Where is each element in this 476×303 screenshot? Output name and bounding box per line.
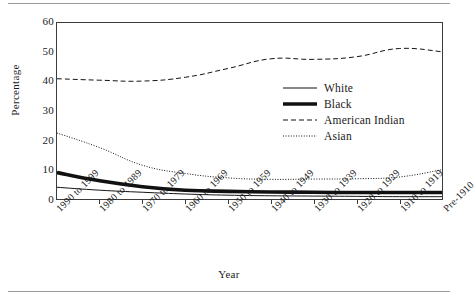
legend-item-white[interactable]: White bbox=[283, 80, 433, 95]
y-axis-tick-labels: 0102030405060 bbox=[28, 0, 54, 303]
legend-item-black[interactable]: Black bbox=[283, 96, 433, 111]
series-line-american-indian bbox=[57, 48, 442, 81]
legend-item-american-indian[interactable]: American Indian bbox=[283, 112, 433, 127]
y-axis-tick-label: 10 bbox=[32, 164, 54, 175]
y-axis-tick-label: 0 bbox=[32, 194, 54, 205]
legend-label: Asian bbox=[324, 130, 352, 142]
legend-label: Black bbox=[324, 98, 352, 110]
y-axis-tick-label: 20 bbox=[32, 135, 54, 146]
bottom-rule bbox=[8, 291, 450, 292]
y-axis-tick-label: 60 bbox=[32, 16, 54, 27]
legend-swatch-icon bbox=[283, 115, 317, 125]
x-axis-tick-label: Pre-1910 bbox=[441, 179, 476, 214]
legend-swatch-icon bbox=[283, 131, 317, 141]
y-axis-tick-label: 50 bbox=[32, 46, 54, 57]
legend: WhiteBlackAmerican IndianAsian bbox=[283, 80, 433, 144]
y-axis-tick-label: 40 bbox=[32, 75, 54, 86]
y-axis-tick-label: 30 bbox=[32, 105, 54, 116]
legend-swatch-icon bbox=[283, 99, 317, 109]
x-axis-title: Year bbox=[0, 268, 458, 280]
legend-item-asian[interactable]: Asian bbox=[283, 128, 433, 143]
legend-label: American Indian bbox=[324, 114, 405, 126]
legend-label: White bbox=[324, 82, 353, 94]
top-rule bbox=[8, 3, 450, 4]
legend-swatch-icon bbox=[283, 83, 317, 93]
y-axis-title: Percentage bbox=[9, 45, 21, 135]
